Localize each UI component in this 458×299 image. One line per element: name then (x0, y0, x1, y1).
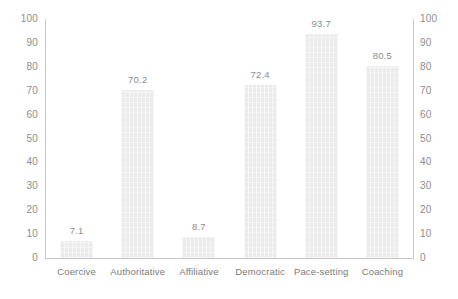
x-tick-label: Democratic (230, 266, 291, 278)
x-tick-label: Authoritative (107, 266, 168, 278)
y-tick-right-40: 40 (420, 157, 450, 167)
y-tick-left-10: 10 (8, 229, 38, 239)
y-tick-left-30: 30 (8, 181, 38, 191)
x-axis-categories: CoerciveAuthoritativeAffiliativeDemocrat… (46, 266, 413, 286)
bar-value-label: 70.2 (107, 75, 168, 85)
axis-spine-right (413, 19, 414, 259)
bar-group: 7.1 (60, 19, 93, 258)
y-tick-left-90: 90 (8, 38, 38, 48)
y-tick-left-40: 40 (8, 157, 38, 167)
x-tick-label: Pace-setting (291, 266, 352, 278)
y-tick-right-50: 50 (420, 134, 450, 144)
bar[interactable] (244, 85, 277, 258)
y-tick-right-70: 70 (420, 86, 450, 96)
bar-value-label: 7.1 (46, 226, 107, 236)
axis-spine-bottom (45, 258, 414, 259)
bar-value-label: 93.7 (291, 19, 352, 29)
bar-group: 70.2 (121, 19, 154, 258)
bar-group: 72.4 (244, 19, 277, 258)
bar-value-label: 8.7 (168, 222, 229, 232)
bar[interactable] (121, 90, 154, 258)
bar[interactable] (305, 34, 338, 258)
plot-area: 7.170.28.772.493.780.5 (46, 19, 413, 258)
bar-value-label: 72.4 (230, 70, 291, 80)
y-tick-right-100: 100 (420, 14, 450, 24)
y-tick-left-100: 100 (8, 14, 38, 24)
bar-group: 80.5 (366, 19, 399, 258)
y-axis-right: 1009080706050403020100 (420, 0, 450, 299)
x-tick-label: Affiliative (168, 266, 229, 278)
x-tick-label: Coercive (46, 266, 107, 278)
y-tick-right-90: 90 (420, 38, 450, 48)
y-tick-right-60: 60 (420, 110, 450, 120)
y-tick-left-0: 0 (8, 253, 38, 263)
bar-group: 93.7 (305, 19, 338, 258)
y-tick-right-20: 20 (420, 205, 450, 215)
y-axis-left: 1009080706050403020100 (8, 0, 38, 299)
y-tick-left-70: 70 (8, 86, 38, 96)
y-tick-left-80: 80 (8, 62, 38, 72)
y-tick-left-60: 60 (8, 110, 38, 120)
y-tick-right-80: 80 (420, 62, 450, 72)
bar[interactable] (366, 66, 399, 258)
bar-chart: 1009080706050403020100 10090807060504030… (0, 0, 458, 299)
y-tick-right-30: 30 (420, 181, 450, 191)
y-tick-left-20: 20 (8, 205, 38, 215)
bar-group: 8.7 (182, 19, 215, 258)
bar-value-label: 80.5 (352, 51, 413, 61)
x-tick-label: Coaching (352, 266, 413, 278)
bar[interactable] (60, 241, 93, 258)
y-tick-right-10: 10 (420, 229, 450, 239)
y-tick-left-50: 50 (8, 134, 38, 144)
y-tick-right-0: 0 (420, 253, 450, 263)
bar[interactable] (182, 237, 215, 258)
